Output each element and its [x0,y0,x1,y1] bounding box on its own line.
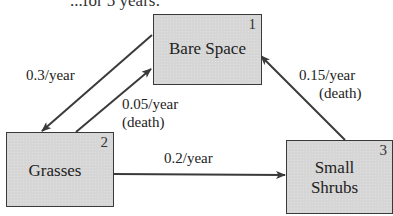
rate-grasses-to-bare: 0.05/year [122,96,178,113]
node-bare-space: 1 Bare Space [153,14,262,85]
node-label: Bare Space [154,39,261,58]
rate-grasses-to-shrubs: 0.2/year [164,150,213,167]
note-grasses-to-bare: (death) [122,114,164,131]
node-number: 3 [380,142,388,159]
arrow-grasses-to-shrubs [113,174,285,175]
node-grasses: 2 Grasses [6,132,114,207]
node-number: 2 [101,134,109,151]
rate-shrubs-to-bare: 0.15/year [299,67,355,84]
node-small-shrubs: 3 Small Shrubs [286,140,393,214]
node-label: Grasses [7,161,103,180]
note-shrubs-to-bare: (death) [319,85,361,102]
node-label-line2: Shrubs [287,178,382,197]
node-number: 1 [249,16,257,33]
node-label-line1: Small [287,158,382,177]
rate-bare-to-grasses: 0.3/year [26,67,75,84]
